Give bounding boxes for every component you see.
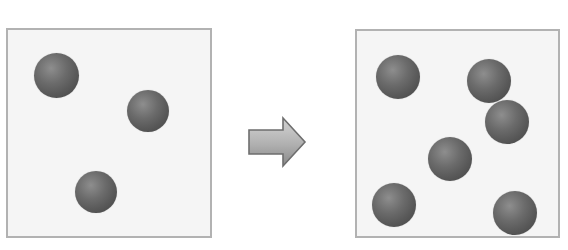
- particle-sphere: [428, 137, 472, 181]
- particle-sphere: [127, 90, 169, 132]
- particle-sphere: [34, 53, 79, 98]
- right-block-arrow-icon: [246, 115, 308, 169]
- particle-sphere: [467, 59, 511, 103]
- particle-sphere: [493, 191, 537, 235]
- particle-sphere: [372, 183, 416, 227]
- particle-sphere: [485, 100, 529, 144]
- figure-canvas: [0, 0, 568, 250]
- particle-sphere: [376, 55, 420, 99]
- particle-sphere: [75, 171, 117, 213]
